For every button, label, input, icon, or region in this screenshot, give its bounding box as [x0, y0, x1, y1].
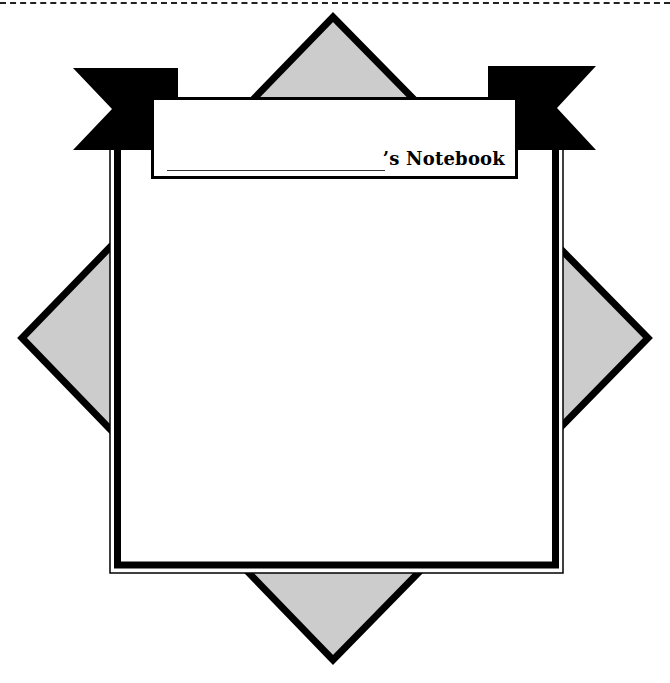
title-banner: ’s Notebook: [151, 97, 518, 179]
notebook-title: ’s Notebook: [383, 148, 505, 169]
frame-thick-border: [118, 140, 556, 565]
name-blank-line[interactable]: [167, 170, 385, 171]
